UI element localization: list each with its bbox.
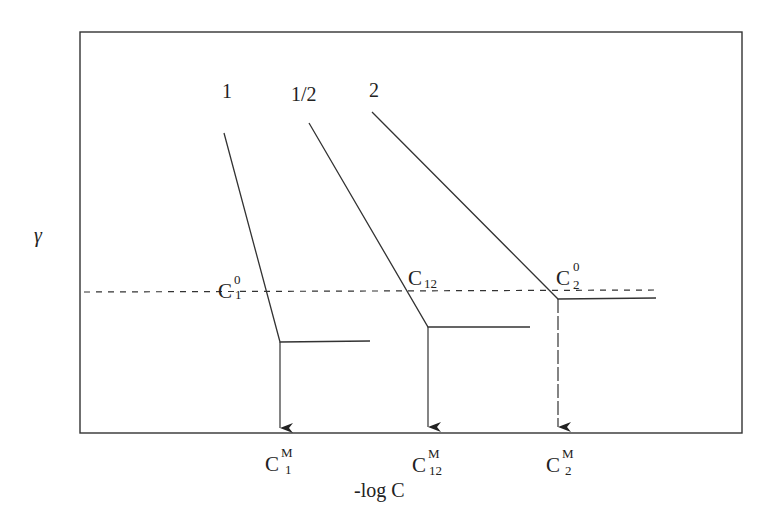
- svg-text:M: M: [562, 446, 574, 461]
- svg-text:0: 0: [234, 272, 241, 287]
- svg-text:1: 1: [235, 287, 242, 302]
- svg-text:C: C: [218, 279, 232, 303]
- svg-text:0: 0: [573, 259, 580, 274]
- svg-text:C: C: [408, 266, 422, 290]
- svg-text:12: 12: [429, 463, 442, 478]
- svg-text:1: 1: [285, 462, 292, 477]
- label-c12-m: C M 12: [412, 446, 442, 478]
- curve-1: [224, 133, 370, 342]
- curve-12: [309, 123, 530, 327]
- svg-text:2: 2: [565, 463, 572, 478]
- svg-text:2: 2: [573, 277, 580, 292]
- label-c1-0: C 0 1: [218, 272, 242, 303]
- svg-text:C: C: [412, 453, 426, 477]
- label-c2-m: C M 2: [546, 446, 574, 478]
- y-axis-label: γ: [34, 224, 43, 247]
- svg-text:M: M: [428, 446, 440, 461]
- label-c2-0: C 0 2: [556, 259, 580, 292]
- plot-frame: [80, 32, 742, 433]
- x-axis-label: -log C: [354, 479, 405, 502]
- svg-text:12: 12: [424, 276, 437, 291]
- curve-label-2: 2: [369, 79, 379, 101]
- label-c1-m: C M 1: [265, 445, 293, 477]
- svg-text:C: C: [556, 266, 570, 290]
- surface-tension-diagram: 1 1/2 2 γ C 0 1 C 12 C 0 2 C M 1 C M 12 …: [0, 0, 774, 529]
- svg-text:M: M: [281, 445, 293, 460]
- svg-text:C: C: [265, 452, 279, 476]
- curve-label-1: 1: [222, 80, 232, 102]
- label-c12: C 12: [408, 266, 437, 291]
- curve-label-12: 1/2: [291, 83, 317, 105]
- svg-text:C: C: [546, 453, 560, 477]
- reference-dashed-line: [84, 290, 658, 292]
